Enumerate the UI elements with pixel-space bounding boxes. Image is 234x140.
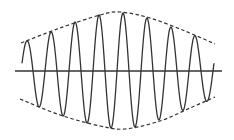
modulated-wave-diagram [0, 0, 234, 140]
upper-envelope-dashed [21, 12, 215, 44]
diagram-svg [0, 0, 234, 140]
